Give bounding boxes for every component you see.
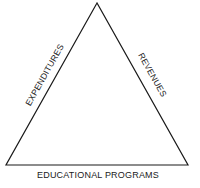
triangle-diagram: EXPENDITURES REVENUES EDUCATIONAL PROGRA… [0, 0, 200, 188]
educational-programs-label: EDUCATIONAL PROGRAMS [37, 171, 159, 180]
